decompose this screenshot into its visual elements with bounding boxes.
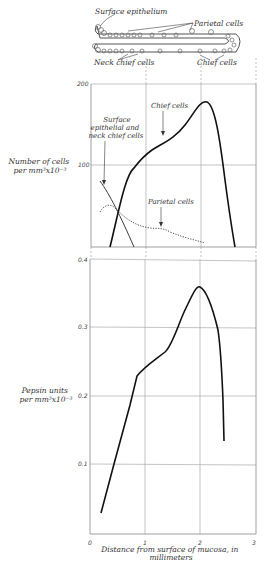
xtick-0: 0 [88,539,92,546]
label-parietal-cells: Parietal cells [193,19,243,28]
ytick-0.2: 0.2 [78,392,88,399]
label-neck-chief-cells: Neck chief cells [93,58,155,67]
annot-surface-neck-chief: Surface epithelial and neck chief cells [89,116,144,140]
ytick-0.4: 0.4 [78,256,88,263]
gastric-gland-diagram: Surface epithelium Parietal cells Neck c… [93,7,244,67]
label-chief-cells: Chief cells [197,58,237,67]
figure: Surface epithelium Parietal cells Neck c… [0,0,270,565]
annot-parietal-cells: Parietal cells [147,198,194,206]
ytick-0.3: 0.3 [78,323,88,330]
y-axis-label-pepsin: Pepsin units per mm³x10⁻³ [19,386,72,404]
cell-count-chart: 200 100 Number of cells per mm³x10⁻³ Chi… [7,80,256,247]
xtick-3: 3 [252,539,256,546]
ytick-100: 100 [78,161,90,168]
ytick-200: 200 [77,80,89,87]
series-pepsin [101,287,224,513]
annot-chief-cells: Chief cells [151,102,189,110]
pepsin-chart: 0.4 0.3 0.2 0.1 0 1 2 3 Pepsin units per… [19,256,256,562]
x-axis-label: Distance from surface of mucosa, in mill… [100,545,241,562]
y-axis-label-cells: Number of cells per mm³x10⁻³ [7,157,71,175]
label-surface-epithelium: Surface epithelium [95,7,167,16]
ytick-0.1: 0.1 [78,460,88,467]
